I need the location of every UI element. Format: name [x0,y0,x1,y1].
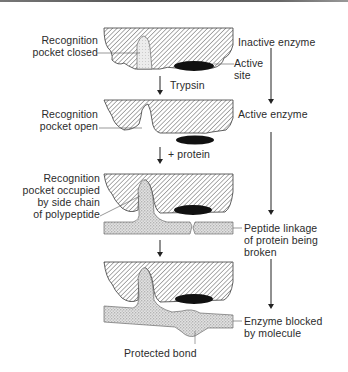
label-inactive-enzyme: Inactive enzyme [238,36,315,48]
label-pocket-open: Recognition pocket open [20,108,98,132]
label-pocket-closed: Recognition pocket closed [28,34,98,58]
label-pocket-occupied: Recognition pocket occupied by side chai… [8,172,100,220]
label-line: by side chain [8,196,100,208]
label-line: pocket occupied [8,184,100,196]
arrow-to-blocked [157,240,163,257]
label-line: Recognition [28,34,98,46]
label-trypsin: Trypsin [170,79,205,91]
label-line: broken [244,246,318,258]
stage-pocket-occupied [100,174,242,234]
label-line: Recognition [8,172,100,184]
state-arrows [268,48,274,309]
label-plus-protein: + protein [168,148,210,160]
stage-inactive-enzyme [97,28,234,71]
label-line: Peptide linkage [244,222,318,234]
label-line: by molecule [244,327,322,339]
label-line: of protein being [244,234,318,246]
label-active-enzyme: Active enzyme [238,108,308,120]
arrow-trypsin [157,76,163,95]
label-protected-bond: Protected bond [124,347,197,359]
label-line: Recognition [20,108,98,120]
label-line: site [234,69,263,81]
stage-enzyme-blocked [104,262,242,344]
arrow-plus-protein [157,147,163,164]
label-active-site: Active site [234,57,263,81]
label-line: pocket closed [28,46,98,58]
stage-active-enzyme [99,100,233,145]
label-enzyme-blocked: Enzyme blocked by molecule [244,315,322,339]
label-line: of polypeptide [8,208,100,220]
label-line: pocket open [20,120,98,132]
label-line: Active [234,57,263,69]
label-peptide-linkage: Peptide linkage of protein being broken [244,222,318,258]
label-line: Enzyme blocked [244,315,322,327]
